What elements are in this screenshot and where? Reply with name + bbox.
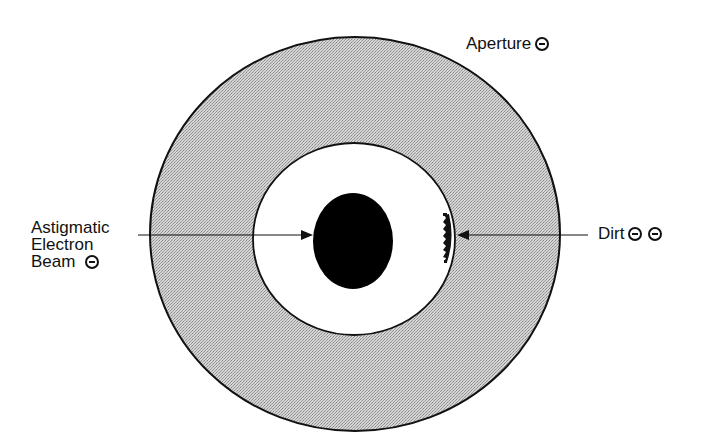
circled-minus-icon <box>85 255 99 269</box>
dirt-label: Dirt <box>598 225 662 243</box>
circled-minus-icon <box>535 37 549 51</box>
aperture-label-text: Aperture <box>466 34 531 53</box>
beam-label: Astigmatic Electron Beam <box>31 219 109 270</box>
circled-minus-icon <box>648 227 662 241</box>
circled-minus-icon <box>628 227 642 241</box>
beam-label-line-2: Electron <box>31 236 109 253</box>
beam-label-line-1: Astigmatic <box>31 219 109 236</box>
dirt-label-text: Dirt <box>598 224 624 243</box>
electron-beam-spot <box>313 193 393 289</box>
aperture-diagram <box>0 0 713 433</box>
aperture-label: Aperture <box>466 35 549 53</box>
beam-label-line-3: Beam <box>31 252 75 271</box>
